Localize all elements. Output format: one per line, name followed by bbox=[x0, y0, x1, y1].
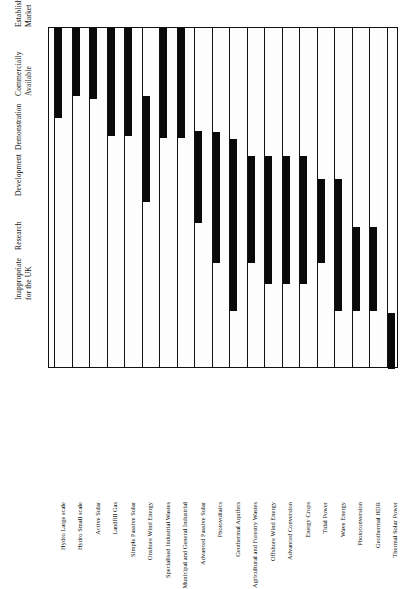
bar bbox=[300, 156, 307, 284]
category-label: Onshore Wind Energy bbox=[146, 502, 153, 560]
bar bbox=[370, 227, 377, 311]
category-label: Hydro Small scale bbox=[76, 502, 83, 550]
bar bbox=[283, 156, 290, 284]
category-label: Tidal Power bbox=[321, 502, 328, 534]
bar bbox=[125, 28, 132, 136]
bar bbox=[108, 28, 115, 136]
category-label: Advanced Passive Solar bbox=[199, 502, 206, 565]
category-label: Active Solar bbox=[94, 502, 101, 535]
category-label: Photovoltaics bbox=[216, 502, 223, 537]
bar bbox=[353, 227, 360, 311]
bar bbox=[90, 28, 97, 99]
bar bbox=[178, 28, 185, 138]
bar bbox=[388, 313, 395, 369]
category-label: Thermal Solar Power bbox=[391, 502, 398, 558]
stage-header-line1: Development bbox=[14, 154, 23, 196]
stage-header-line1: Inappropriate bbox=[14, 258, 23, 300]
stage-header-line2: for the UK bbox=[24, 266, 33, 300]
bar-group bbox=[49, 28, 397, 367]
category-label: Advanced Conversion bbox=[286, 502, 293, 560]
plot-area bbox=[48, 27, 398, 368]
category-label: Simple Passive Solar bbox=[129, 502, 136, 557]
category-label: Hydro Large scale bbox=[59, 502, 66, 550]
category-label: Wave Energy bbox=[339, 502, 346, 537]
bar bbox=[195, 131, 202, 223]
category-label: Landfill Gas bbox=[111, 502, 118, 535]
category-label: Specialised Industrial Wastes bbox=[164, 502, 171, 578]
bar bbox=[248, 156, 255, 263]
category-label: Agricultural and Forestry Wastes bbox=[251, 502, 258, 588]
category-label: Geothermal Aquifers bbox=[234, 502, 241, 557]
stage-header-line1: Demonstration bbox=[14, 104, 23, 150]
category-label: Geothermal HDR bbox=[374, 502, 381, 548]
bar bbox=[160, 28, 167, 138]
bar bbox=[265, 156, 272, 284]
stage-header-group: EstablishedMarketCommerciallyAvailableDe… bbox=[0, 0, 48, 368]
stage-header-line1: Commercially bbox=[14, 51, 23, 96]
category-label: Photoconversion bbox=[356, 502, 363, 546]
stage-header-line1: Research bbox=[14, 221, 23, 250]
stage-header-line1: Established bbox=[14, 0, 23, 27]
stage-header-line2: Market bbox=[24, 4, 33, 27]
stage-header-line2: Available bbox=[24, 66, 33, 96]
category-label: Offshore Wind Energy bbox=[269, 502, 276, 561]
bar bbox=[213, 132, 220, 263]
bar bbox=[318, 179, 325, 263]
bar bbox=[55, 28, 62, 118]
bar bbox=[143, 96, 150, 202]
bar bbox=[335, 179, 342, 311]
bar bbox=[230, 139, 237, 311]
category-label: Municipal and General Industrial bbox=[181, 502, 188, 589]
category-label-group: Hydro Large scaleHydro Small scaleActive… bbox=[48, 370, 398, 506]
bar bbox=[73, 28, 80, 96]
category-label: Energy Crops bbox=[304, 502, 311, 538]
